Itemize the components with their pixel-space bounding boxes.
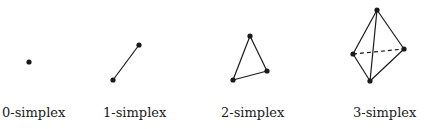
hidden-edge-line xyxy=(353,49,404,54)
simplex-2-figure xyxy=(230,33,269,82)
edge-line xyxy=(113,45,139,80)
simplex-2-label: 2-simplex xyxy=(221,105,284,120)
vertex-dot xyxy=(374,7,379,12)
simplex-3-label: 3-simplex xyxy=(353,105,416,120)
edge-line xyxy=(370,49,404,81)
edge-line xyxy=(233,36,250,80)
vertex-dot xyxy=(26,59,31,64)
vertex-dot xyxy=(350,51,355,56)
edge-line xyxy=(353,54,370,81)
edge-line xyxy=(250,36,267,71)
simplex-0-label: 0-simplex xyxy=(2,105,65,120)
vertex-dot xyxy=(247,33,252,38)
simplex-0-figure xyxy=(26,59,31,64)
simplex-1-figure xyxy=(110,42,141,82)
vertex-dot xyxy=(367,78,372,83)
simplex-1-label: 1-simplex xyxy=(103,105,166,120)
vertex-dot xyxy=(230,77,235,82)
vertex-dot xyxy=(401,46,406,51)
vertex-dot xyxy=(110,77,115,82)
vertex-dot xyxy=(264,68,269,73)
simplex-3-figure xyxy=(350,7,406,83)
vertex-dot xyxy=(136,42,141,47)
edge-line xyxy=(377,10,404,49)
edge-line xyxy=(233,71,267,80)
